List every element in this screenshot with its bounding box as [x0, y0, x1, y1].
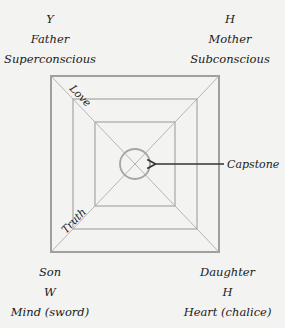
love-label: Love — [67, 81, 94, 108]
capstone-label: Capstone — [227, 158, 280, 171]
pyramid-diagram: Love Truth Capstone — [0, 0, 285, 328]
